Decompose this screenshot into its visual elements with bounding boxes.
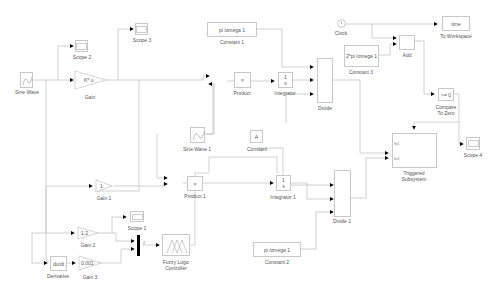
add-block[interactable] — [399, 35, 415, 50]
gain-1-value: 1 — [100, 183, 103, 189]
compare-to-zero-label: CompareTo Zero — [436, 104, 457, 116]
gain-value: K* u — [84, 77, 94, 83]
scope-screen-icon — [132, 214, 143, 220]
subsystem-in1-port: In1 — [394, 141, 400, 146]
to-workspace-block[interactable]: time — [442, 16, 470, 31]
integrator-den: s — [282, 183, 285, 189]
derivative-value: du/dt — [53, 261, 64, 267]
product-label: Product — [233, 90, 250, 96]
fuzzy-logic-controller-block[interactable] — [162, 234, 190, 256]
scope-screen-icon — [468, 140, 479, 147]
compare-value: >= 0 — [441, 92, 451, 98]
integrator-label: Integrator — [274, 90, 295, 96]
integrator-block[interactable]: 1s — [278, 72, 293, 88]
gain-block[interactable]: K* u — [74, 70, 114, 90]
product-icon: × — [241, 77, 244, 83]
product-icon: × — [194, 181, 197, 187]
trig-label-line2: Subsystem — [402, 176, 427, 182]
clock-label: Clock — [335, 30, 348, 36]
scope-4-label: Scope 4 — [464, 152, 482, 158]
divide-1-block[interactable] — [334, 170, 351, 217]
integrator-den: s — [284, 80, 287, 86]
membership-functions-icon — [163, 235, 191, 257]
compare-label-line2: To Zero — [438, 110, 455, 116]
sine-wave-icon — [191, 128, 206, 144]
add-label: Add — [403, 52, 412, 58]
scope-screen-icon — [76, 43, 87, 50]
scope-screen-icon — [136, 26, 147, 33]
constant-a-value: A — [255, 134, 258, 140]
gain-3-block[interactable]: 0.001 — [78, 255, 104, 271]
clock-hand-icon — [341, 21, 342, 24]
to-workspace-label: To Workspace — [440, 33, 472, 39]
constant-3-value: 2*pi /omega 1 — [346, 53, 377, 59]
scope-3-label: Scope 3 — [133, 37, 151, 43]
gain-label: Gain — [85, 94, 96, 100]
fuzzy-label: Fuzzy LogicController — [163, 259, 190, 271]
constant-1-label: Constant 1 — [220, 39, 244, 45]
constant-a-label: Constant — [247, 146, 267, 152]
gain-1-block[interactable]: 1 — [95, 179, 115, 193]
model-canvas[interactable]: Sine Wave Scope 2 Scope 3 K* u Gain pi /… — [0, 0, 497, 293]
triggered-subsystem-block[interactable] — [392, 133, 437, 168]
triggered-subsystem-label: TriggeredSubsystem — [402, 170, 427, 182]
gain-2-value: 1.2 — [81, 230, 88, 236]
integrator-1-label: Integrator 1 — [270, 194, 296, 200]
sine-wave-icon — [21, 73, 34, 89]
constant-2-block[interactable]: pi /omega 1 — [253, 242, 301, 257]
constant-2-value: pi /omega 1 — [264, 247, 290, 253]
divide-block[interactable] — [317, 58, 333, 103]
fuzzy-label-line2: Controller — [165, 265, 187, 271]
divide-label: Divide — [318, 105, 332, 111]
constant-3-block[interactable]: 2*pi /omega 1 — [344, 45, 379, 67]
product-1-block[interactable]: × — [187, 176, 203, 191]
sine-wave-1-label: Sine Wave 1 — [183, 146, 211, 152]
scope-2-label: Scope 2 — [73, 54, 91, 60]
scope-2-block[interactable] — [75, 40, 88, 52]
gain-2-block[interactable]: 1.2 — [77, 226, 101, 240]
constant-2-label: Constant 2 — [265, 259, 289, 265]
constant-1-block[interactable]: pi /omega 1 — [207, 22, 257, 37]
derivative-block[interactable]: du/dt — [50, 256, 67, 271]
product-1-label: Product 1 — [184, 193, 205, 199]
mux-port-label: 2 — [143, 240, 145, 245]
gain-2-label: Gain 2 — [81, 242, 96, 248]
derivative-label: Derivative — [47, 273, 69, 279]
scope-4-block[interactable] — [466, 137, 480, 150]
scope-1-block[interactable] — [130, 211, 144, 222]
constant-a-block[interactable]: A — [250, 130, 263, 143]
subsystem-in2-port: In2 — [394, 156, 400, 161]
clock-block[interactable] — [337, 19, 346, 28]
sine-wave-block[interactable] — [20, 72, 33, 88]
constant-1-value: pi /omega 1 — [219, 27, 245, 33]
sine-wave-label: Sine Wave — [15, 89, 39, 95]
gain-3-value: 0.001 — [81, 260, 94, 266]
to-workspace-value: time — [451, 21, 460, 27]
gain-3-label: Gain 3 — [83, 274, 98, 280]
constant-3-label: Constant 3 — [349, 69, 373, 75]
scope-3-block[interactable] — [135, 23, 148, 35]
compare-to-zero-block[interactable]: >= 0 — [438, 88, 454, 101]
mux-block[interactable] — [137, 235, 140, 256]
product-block[interactable]: × — [234, 72, 251, 88]
scope-1-label: Scope 1 — [128, 225, 146, 231]
gain-1-label: Gain 1 — [97, 195, 112, 201]
integrator-1-block[interactable]: 1s — [276, 175, 291, 191]
divide-1-label: Divide 1 — [333, 218, 351, 224]
sine-wave-1-block[interactable] — [190, 127, 205, 143]
